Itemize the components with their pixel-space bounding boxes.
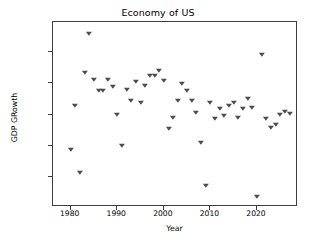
data-point (198, 140, 204, 144)
data-point (179, 82, 185, 86)
data-point (119, 144, 125, 148)
data-point (249, 106, 255, 110)
data-point (203, 183, 209, 187)
data-point (207, 100, 213, 104)
data-point (212, 117, 218, 121)
data-point (86, 32, 92, 36)
data-point (268, 126, 274, 130)
data-point (240, 106, 246, 110)
y-tick-mark (48, 51, 52, 52)
y-tick-mark (48, 82, 52, 83)
x-tick-label: 2020 (236, 209, 276, 218)
data-point (287, 112, 293, 116)
y-tick-mark (48, 114, 52, 115)
data-point (77, 171, 83, 175)
data-point (254, 195, 260, 199)
data-point (123, 88, 129, 92)
data-point (221, 114, 227, 118)
data-point (156, 69, 162, 73)
x-tick-label: 2000 (143, 209, 183, 218)
data-point (189, 99, 195, 103)
y-axis-label: GDP GRowth (10, 68, 19, 168)
data-point (184, 88, 190, 92)
data-point (151, 73, 157, 77)
data-point (133, 80, 139, 84)
x-tick-mark (70, 206, 71, 210)
chart-figure: Economy of US GDP GRowth −0.020.000.020.… (0, 0, 316, 243)
data-point (231, 100, 237, 104)
x-tick-mark (163, 206, 164, 210)
data-point (91, 78, 97, 82)
data-point (142, 83, 148, 87)
data-point (100, 88, 106, 92)
data-point (263, 117, 269, 121)
data-point (72, 104, 78, 108)
data-point (245, 97, 251, 101)
x-tick-label: 2010 (189, 209, 229, 218)
data-point (128, 99, 134, 103)
data-point (193, 111, 199, 115)
chart-title: Economy of US (0, 7, 316, 18)
x-tick-mark (116, 206, 117, 210)
plot-area (52, 21, 297, 206)
y-tick-mark (48, 176, 52, 177)
data-point (110, 85, 116, 89)
data-point (68, 148, 74, 152)
data-point (82, 71, 88, 75)
data-point (137, 101, 143, 105)
x-tick-label: 1980 (50, 209, 90, 218)
data-point (114, 113, 120, 117)
data-point (105, 77, 111, 81)
data-point (175, 99, 181, 103)
data-point (170, 115, 176, 119)
data-point (259, 53, 265, 57)
x-tick-label: 1990 (96, 209, 136, 218)
data-point (165, 127, 171, 131)
data-point (273, 123, 279, 127)
data-point (161, 79, 167, 83)
data-point (235, 115, 241, 119)
x-tick-mark (209, 206, 210, 210)
x-axis-label: Year (52, 224, 297, 233)
data-point (217, 106, 223, 110)
y-tick-mark (48, 145, 52, 146)
x-tick-mark (256, 206, 257, 210)
scatter-points-layer (53, 22, 296, 205)
